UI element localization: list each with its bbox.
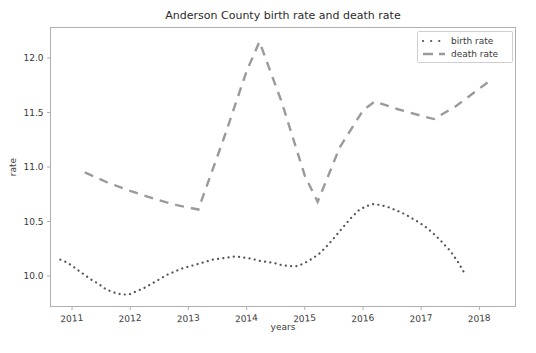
x-axis-title: years — [271, 322, 296, 332]
x-tick-label: 2015 — [293, 313, 317, 325]
y-tick-label: 11.5 — [23, 108, 43, 118]
chart-legend[interactable]: birth ratedeath rate — [418, 32, 513, 63]
y-axis-title: rate — [8, 157, 18, 176]
x-tick-label: 2018 — [467, 313, 491, 325]
chart-title: Anderson County birth rate and death rat… — [165, 9, 401, 22]
series-birth-rate — [60, 204, 465, 294]
legend-label-death-rate: death rate — [451, 49, 499, 59]
x-tick-label: 2013 — [176, 313, 200, 325]
y-axis-ticks: 10.010.511.011.512.0 — [23, 53, 50, 281]
x-tick-label: 2011 — [60, 313, 84, 325]
y-tick-label: 11.0 — [23, 162, 43, 172]
y-tick-label: 10.0 — [23, 271, 43, 281]
legend-label-birth-rate: birth rate — [451, 36, 494, 46]
line-chart: Anderson County birth rate and death rat… — [0, 0, 536, 353]
data-series-layer — [60, 42, 491, 295]
x-tick-label: 2017 — [409, 313, 433, 325]
x-tick-label: 2012 — [118, 313, 142, 325]
y-tick-label: 12.0 — [23, 53, 43, 63]
x-tick-label: 2016 — [351, 313, 375, 325]
y-tick-label: 10.5 — [23, 217, 43, 227]
chart-figure: Anderson County birth rate and death rat… — [0, 0, 536, 353]
series-death-rate — [85, 42, 491, 210]
x-tick-label: 2014 — [235, 313, 259, 325]
plot-frame — [51, 28, 516, 307]
